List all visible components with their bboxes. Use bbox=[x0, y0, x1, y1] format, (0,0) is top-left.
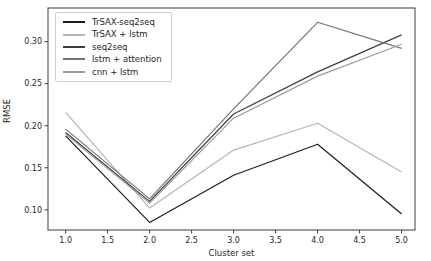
legend-label: TrSAX + lstm bbox=[92, 30, 148, 39]
line-chart-figure: 1.01.52.02.53.03.54.04.55.00.100.150.200… bbox=[0, 0, 431, 261]
y-axis-label: RMSE bbox=[2, 99, 12, 123]
legend: TrSAX-seq2seq TrSAX + lstm seq2seq lstm … bbox=[55, 12, 172, 82]
y-tick-label: 0.30 bbox=[24, 37, 42, 46]
x-tick-label: 1.5 bbox=[101, 236, 114, 245]
x-tick-label: 2.5 bbox=[185, 236, 198, 245]
legend-label: lstm + attention bbox=[92, 55, 162, 64]
legend-item: seq2seq bbox=[63, 41, 162, 53]
y-tick-label: 0.10 bbox=[24, 206, 42, 215]
x-tick-label: 1.0 bbox=[59, 236, 72, 245]
x-tick-label: 2.0 bbox=[143, 236, 156, 245]
y-tick-label: 0.25 bbox=[24, 79, 42, 88]
legend-label: TrSAX-seq2seq bbox=[92, 18, 155, 27]
series-line-trsax-lstm bbox=[66, 112, 402, 208]
legend-item: TrSAX + lstm bbox=[63, 28, 162, 40]
legend-item: lstm + attention bbox=[63, 53, 162, 65]
x-tick-label: 3.0 bbox=[227, 236, 240, 245]
legend-label: seq2seq bbox=[92, 43, 128, 52]
legend-line-swatch bbox=[63, 46, 85, 48]
y-tick-label: 0.15 bbox=[24, 164, 42, 173]
legend-line-swatch bbox=[63, 34, 85, 36]
x-axis-label: Cluster set bbox=[209, 248, 256, 258]
x-tick-label: 5.0 bbox=[395, 236, 408, 245]
legend-item: cnn + lstm bbox=[63, 66, 162, 78]
legend-line-swatch bbox=[63, 58, 85, 60]
legend-line-swatch bbox=[63, 21, 85, 23]
legend-line-swatch bbox=[63, 71, 85, 73]
x-tick-label: 4.5 bbox=[353, 236, 366, 245]
series-line-trsax-seq2seq bbox=[66, 136, 402, 223]
legend-label: cnn + lstm bbox=[92, 68, 138, 77]
legend-item: TrSAX-seq2seq bbox=[63, 16, 162, 28]
x-tick-label: 3.5 bbox=[269, 236, 282, 245]
x-tick-label: 4.0 bbox=[311, 236, 324, 245]
y-tick-label: 0.20 bbox=[24, 122, 42, 131]
